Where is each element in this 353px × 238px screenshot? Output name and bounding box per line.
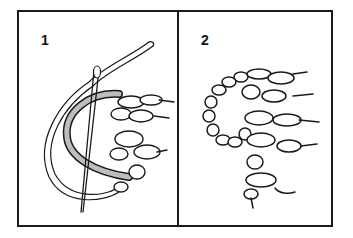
panel-2: 2 [179,12,331,225]
finished-stitch-illustration [179,12,331,225]
panel-1: 1 [19,12,177,225]
needle-and-yarn-illustration [19,12,177,225]
